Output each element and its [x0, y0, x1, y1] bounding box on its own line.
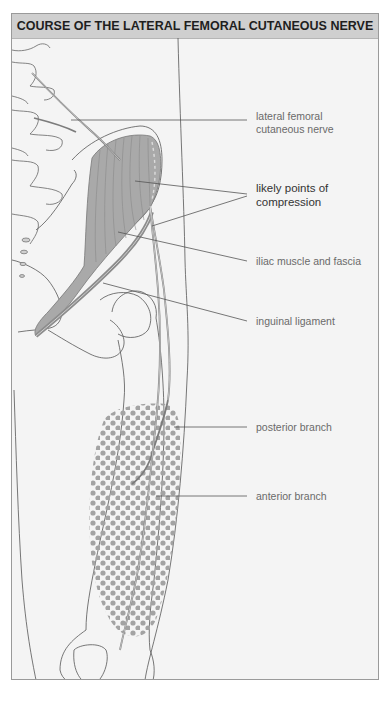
label-line: cutaneous nerve — [256, 123, 334, 136]
leader-iliac — [118, 232, 247, 261]
label-inguinal-ligament: inguinal ligament — [256, 315, 335, 328]
spine — [12, 44, 62, 244]
label-line: iliac muscle and fascia — [256, 255, 361, 268]
label-posterior-branch: posterior branch — [256, 421, 332, 434]
label-line: lateral femoral — [256, 110, 334, 123]
leader-inguinal — [103, 283, 247, 321]
sensory-area — [90, 404, 181, 637]
body-outline-left — [14, 390, 36, 680]
label-line: likely points of — [256, 182, 328, 196]
label-line: posterior branch — [256, 421, 332, 434]
label-lateral-femoral-cutaneous-nerve: lateral femoral cutaneous nerve — [256, 110, 334, 135]
patella — [74, 645, 107, 686]
label-line: compression — [256, 196, 328, 210]
anatomy-illustration — [0, 0, 385, 713]
pelvis-inner — [36, 170, 76, 230]
acetabulum — [100, 293, 151, 338]
label-line: inguinal ligament — [256, 315, 335, 328]
sacral-foramina — [20, 238, 31, 277]
label-line: anterior branch — [256, 490, 327, 503]
label-anterior-branch: anterior branch — [256, 490, 327, 503]
label-likely-points-of-compression: likely points of compression — [256, 182, 328, 209]
label-iliac-muscle-and-fascia: iliac muscle and fascia — [256, 255, 361, 268]
leader-compression-2 — [152, 196, 247, 226]
pubis — [48, 320, 124, 358]
